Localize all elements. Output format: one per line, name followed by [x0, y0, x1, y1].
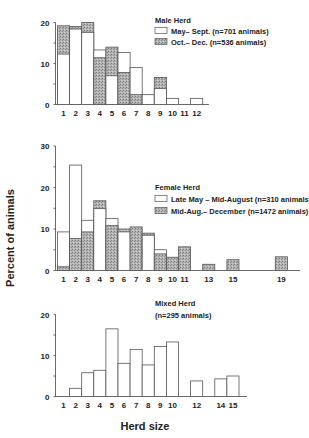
bar-shaded-6 [118, 73, 130, 105]
x-tick-label: 1 [61, 275, 66, 284]
bar-white-14 [215, 379, 227, 397]
x-tick-label: 2 [73, 401, 78, 410]
bar-white-9 [154, 89, 166, 105]
y-tick-label: 10 [41, 352, 50, 361]
x-tick-label: 12 [192, 401, 201, 410]
x-tick-label: 2 [73, 109, 78, 118]
x-tick-label: 12 [192, 109, 201, 118]
bar-white-15 [227, 376, 239, 397]
x-tick-label: 6 [122, 401, 127, 410]
legend-label: May– Sept. (n=701 animals) [171, 27, 269, 36]
legend-swatch-shaded [155, 208, 167, 214]
bar-shaded-1 [58, 267, 70, 271]
y-tick-label: 10 [41, 60, 50, 69]
bar-white-6 [118, 232, 130, 271]
bar-shaded-11 [179, 247, 191, 271]
x-tick-label: 10 [168, 401, 177, 410]
bar-white-12 [191, 381, 203, 397]
bar-white-1 [58, 54, 70, 104]
bar-white-4 [94, 370, 106, 396]
x-tick-label: 2 [73, 275, 78, 284]
legend-title: Mixed Herd [155, 299, 196, 308]
legend-title: Male Herd [155, 16, 191, 25]
x-tick-label: 6 [122, 275, 127, 284]
male-herd-chart: 01020123456789101112Male HerdMay– Sept. … [41, 16, 270, 118]
x-tick-label: 7 [134, 401, 139, 410]
x-tick-label: 3 [86, 275, 91, 284]
x-tick-label: 6 [122, 109, 127, 118]
y-axis-label: Percent of animals [4, 189, 16, 287]
x-tick-label: 7 [134, 275, 139, 284]
x-tick-label: 3 [86, 401, 91, 410]
x-tick-label: 14 [216, 401, 225, 410]
legend-subtitle: (n=295 animals) [155, 311, 212, 320]
bar-white-8 [142, 235, 154, 270]
x-tick-label: 8 [146, 275, 151, 284]
mixed-herd-chart: 0102012345678910121415Mixed Herd(n=295 a… [41, 299, 247, 410]
legend-title: Female Herd [155, 183, 200, 192]
bar-shaded-13 [203, 264, 215, 270]
x-tick-label: 7 [134, 109, 139, 118]
bar-white-12 [191, 98, 203, 104]
bar-white-2 [70, 388, 82, 396]
female-herd-chart: 01020301234567891011131519Female HerdLat… [41, 142, 309, 284]
x-tick-label: 9 [158, 275, 163, 284]
bar-white-8 [142, 95, 154, 105]
x-tick-label: 1 [61, 401, 66, 410]
bar-white-2 [70, 29, 82, 104]
x-tick-label: 3 [86, 109, 91, 118]
bar-shaded-4 [94, 58, 106, 105]
x-tick-label: 9 [158, 401, 163, 410]
x-tick-label: 8 [146, 401, 151, 410]
y-tick-label: 20 [41, 184, 50, 193]
x-tick-label: 10 [168, 109, 177, 118]
bar-white-10 [166, 98, 178, 104]
legend: Mixed Herd(n=295 animals) [155, 299, 212, 320]
legend-label: Mid-Aug.– December (n=1472 animals) [171, 207, 309, 216]
y-tick-label: 0 [45, 267, 50, 276]
x-tick-label: 1 [61, 109, 66, 118]
x-tick-label: 13 [204, 275, 213, 284]
x-tick-label: 11 [180, 109, 189, 118]
y-tick-label: 30 [41, 142, 50, 151]
x-tick-label: 5 [110, 109, 115, 118]
x-tick-label: 4 [98, 275, 103, 284]
y-tick-label: 0 [45, 101, 50, 110]
bar-shaded-5 [106, 226, 118, 271]
x-tick-label: 5 [110, 401, 115, 410]
bar-shaded-2 [70, 239, 82, 271]
x-tick-label: 9 [158, 109, 163, 118]
legend-swatch-white [155, 28, 167, 34]
legend: Male HerdMay– Sept. (n=701 animals)Oct.–… [155, 16, 269, 47]
y-tick-label: 20 [41, 19, 50, 28]
bar-white-5 [106, 329, 118, 397]
bar-shaded-9 [154, 254, 166, 271]
x-tick-label: 19 [277, 275, 286, 284]
y-tick-label: 0 [45, 393, 50, 402]
legend: Female HerdLate May – Mid-August (n=310 … [155, 183, 309, 216]
x-tick-label: 11 [180, 275, 189, 284]
x-tick-label: 4 [98, 109, 103, 118]
bar-white-8 [142, 365, 154, 397]
bar-white-3 [82, 32, 94, 104]
legend-swatch-shaded [155, 39, 167, 45]
legend-label: Late May – Mid-August (n=310 animals) [171, 195, 309, 204]
x-tick-label: 5 [110, 275, 115, 284]
bar-white-5 [106, 76, 118, 105]
bar-white-7 [130, 349, 142, 396]
bar-shaded-19 [275, 257, 287, 271]
bar-shaded-15 [227, 260, 239, 271]
bar-shaded-10 [166, 257, 178, 270]
bar-white-10 [166, 342, 178, 397]
x-tick-label: 10 [168, 275, 177, 284]
bar-white-3 [82, 373, 94, 397]
x-tick-label: 8 [146, 109, 151, 118]
legend-swatch-white [155, 196, 167, 202]
bar-shaded-7 [130, 227, 142, 271]
bar-white-6 [118, 363, 130, 396]
herd-size-figure: 01020123456789101112Male HerdMay– Sept. … [0, 0, 309, 438]
x-tick-label: 15 [228, 401, 237, 410]
legend-label: Oct.– Dec. (n=536 animals) [171, 38, 267, 47]
x-tick-label: 4 [98, 401, 103, 410]
x-tick-label: 15 [228, 275, 237, 284]
